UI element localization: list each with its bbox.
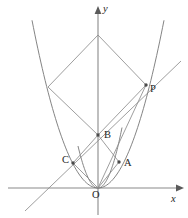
apex-to-right-vertex bbox=[98, 35, 146, 85]
left-vertex-to-B bbox=[48, 87, 98, 135]
x-axis-arrowhead bbox=[176, 185, 184, 192]
point-label-c: C bbox=[62, 155, 69, 166]
apex-to-left-vertex bbox=[48, 35, 98, 87]
point-label-o: O bbox=[92, 190, 100, 201]
point-marker-a bbox=[117, 160, 120, 163]
x-axis-label: x bbox=[171, 194, 176, 205]
point-marker-c bbox=[71, 161, 74, 164]
C-to-O bbox=[73, 163, 98, 188]
point-label-p: P bbox=[150, 84, 156, 95]
geometry-figure: PBCAO x y bbox=[0, 0, 188, 218]
point-marker-b bbox=[96, 133, 99, 136]
y-axis-label: y bbox=[103, 4, 108, 15]
y-axis-arrowhead bbox=[95, 6, 102, 14]
B-to-P bbox=[98, 85, 146, 135]
point-label-b: B bbox=[104, 130, 111, 141]
point-label-a: A bbox=[124, 158, 132, 169]
C-to-B bbox=[73, 135, 98, 163]
point-marker-p bbox=[144, 83, 147, 86]
figure-canvas bbox=[0, 0, 188, 218]
